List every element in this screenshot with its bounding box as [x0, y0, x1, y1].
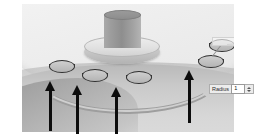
- arrow-head-icon: [111, 87, 121, 97]
- arrow-head-icon: [72, 85, 82, 95]
- spinner-up-icon[interactable]: [247, 87, 251, 89]
- arrow-head-icon: [45, 81, 55, 91]
- hole-ring-icon: [198, 55, 224, 68]
- screenshot-root: Radius 1: [0, 0, 256, 134]
- annotation-arrow-3: [111, 87, 122, 131]
- ghost-callout-upper: [212, 37, 234, 46]
- radius-callout[interactable]: Radius 1: [209, 84, 254, 94]
- arrow-shaft: [188, 77, 191, 123]
- arrow-head-icon: [184, 70, 194, 80]
- arrow-shaft: [76, 92, 79, 134]
- hole-handle-4[interactable]: [198, 55, 224, 68]
- hole-handle-3[interactable]: [126, 71, 152, 84]
- annotation-arrow-4: [184, 70, 195, 116]
- boss-cylinder-top-face: [104, 10, 141, 20]
- radius-spinner[interactable]: [247, 87, 251, 92]
- spinner-down-icon[interactable]: [247, 90, 251, 92]
- hole-ring-icon: [49, 60, 75, 73]
- hole-ring-icon: [126, 71, 152, 84]
- hole-handle-2[interactable]: [82, 69, 108, 82]
- radius-label: Radius: [212, 85, 229, 93]
- annotation-arrow-1: [45, 81, 56, 124]
- radius-input[interactable]: 1: [231, 84, 245, 94]
- hole-ring-icon: [82, 69, 108, 82]
- arrow-shaft: [49, 88, 52, 131]
- annotation-arrow-2: [72, 85, 83, 127]
- hole-handle-1[interactable]: [49, 60, 75, 73]
- arrow-shaft: [115, 94, 118, 134]
